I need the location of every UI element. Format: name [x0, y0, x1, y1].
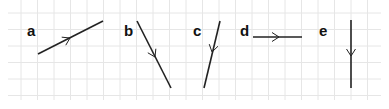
vector-line: [204, 21, 220, 88]
vector-label: c: [193, 22, 201, 39]
vector-label: e: [319, 22, 327, 39]
vector-label: a: [27, 22, 36, 39]
vector-b: b: [124, 21, 171, 88]
vector-a: a: [27, 21, 103, 54]
vector-diagram: abcde: [0, 0, 389, 109]
vectors-group: abcde: [27, 20, 356, 88]
vector-e: e: [319, 20, 356, 88]
vector-c: c: [193, 21, 220, 88]
vector-label: b: [124, 22, 133, 39]
vector-d: d: [240, 22, 302, 42]
background-grid: [8, 0, 381, 100]
vector-line: [137, 21, 171, 88]
vector-label: d: [240, 22, 249, 39]
